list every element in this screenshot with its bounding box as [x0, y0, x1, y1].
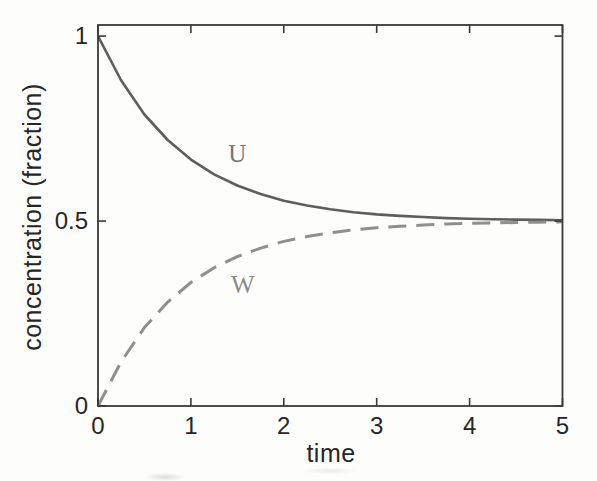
x-axis-label: time	[306, 441, 355, 466]
y-axis-label: concentration (fraction)	[20, 83, 45, 351]
x-tick-label: 3	[370, 414, 383, 438]
scanned-chart-figure: 012345 00.51 time concentration (fractio…	[0, 0, 597, 481]
y-tick-label: 0	[75, 394, 88, 418]
curve-label-U: U	[228, 140, 246, 165]
curve-W	[98, 222, 563, 406]
y-tick-label: 1	[75, 24, 88, 48]
x-tick-label: 1	[184, 414, 197, 438]
curve-label-W: W	[231, 272, 255, 297]
plot-box	[98, 25, 563, 406]
chart-canvas	[0, 0, 597, 481]
y-tick-label: 0.5	[55, 209, 88, 233]
curve-U	[98, 36, 563, 220]
x-tick-label: 0	[91, 414, 104, 438]
x-tick-label: 5	[556, 414, 569, 438]
x-tick-label: 2	[277, 414, 290, 438]
x-tick-label: 4	[463, 414, 476, 438]
